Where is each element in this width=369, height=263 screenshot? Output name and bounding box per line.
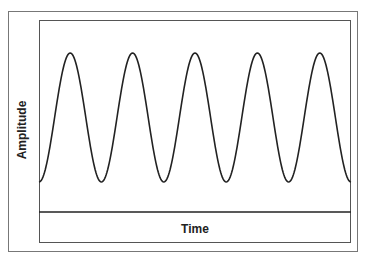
sine-wave-line <box>39 53 351 182</box>
x-axis-label: Time <box>181 222 209 236</box>
y-axis-label: Amplitude <box>15 100 29 160</box>
